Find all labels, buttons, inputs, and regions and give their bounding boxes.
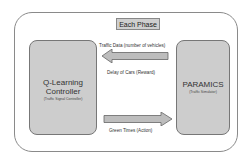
delay-of-cars-label: Delay of Cars (Reward) bbox=[107, 70, 155, 75]
controller-title-line1: Q-Learning bbox=[30, 78, 96, 87]
arrow-left-icon bbox=[102, 49, 170, 63]
paramics-node: PARAMICS (Traffic Simulator) bbox=[176, 40, 230, 135]
controller-title-line2: Controller bbox=[30, 87, 96, 96]
paramics-title: PARAMICS bbox=[177, 80, 229, 89]
arrow-right-icon bbox=[103, 112, 173, 126]
traffic-data-label: Traffic Data (number of vehicles) bbox=[99, 43, 165, 48]
paramics-subtitle: (Traffic Simulator) bbox=[177, 90, 229, 94]
controller-subtitle: (Traffic Signal Controller) bbox=[30, 97, 96, 101]
q-learning-controller-node: Q-Learning Controller (Traffic Signal Co… bbox=[29, 40, 97, 135]
green-times-label: Green Times (Action) bbox=[109, 128, 152, 133]
each-phase-label: Each Phase bbox=[116, 18, 160, 30]
